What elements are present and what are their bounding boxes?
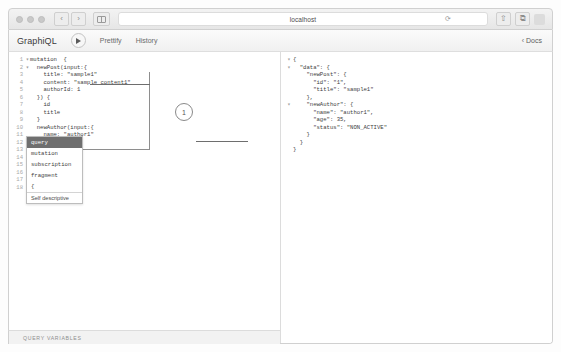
window-traffic-lights: [9, 16, 45, 23]
autocomplete-item[interactable]: fragment: [27, 170, 82, 181]
url-text: localhost: [290, 16, 317, 23]
annotation-strike-bottom: [196, 141, 248, 142]
line-source: title: [30, 109, 280, 117]
line-source: id: [30, 101, 280, 109]
play-icon: [76, 38, 81, 44]
line-number: 4: [9, 79, 25, 87]
editor-line[interactable]: 8 title: [9, 109, 280, 117]
line-source: mutation {: [30, 56, 280, 64]
reload-icon[interactable]: ⟳: [445, 15, 451, 23]
fold-toggle-icon[interactable]: ▾: [285, 64, 293, 72]
result-line-text: }: [293, 139, 303, 147]
editor-line[interactable]: 1▾mutation {: [9, 56, 280, 64]
line-number: 11: [9, 131, 25, 139]
result-line-text: }: [293, 131, 310, 139]
result-line: "newPost": {: [285, 71, 552, 79]
annotation-strike-top: [90, 84, 150, 85]
prettify-button[interactable]: Prettify: [100, 37, 122, 44]
result-line-text: "title": "sample1": [293, 86, 374, 94]
new-tab-icon[interactable]: [534, 14, 545, 25]
query-variables-label: QUERY VARIABLES: [23, 335, 82, 341]
editor-line[interactable]: 9 }: [9, 116, 280, 124]
result-line: "name": "author1",: [285, 109, 552, 117]
result-line-text: "data": {: [293, 64, 330, 72]
autocomplete-item[interactable]: query: [27, 137, 82, 148]
close-window-icon[interactable]: [16, 16, 23, 23]
editor-line[interactable]: 4 content: "sample content1": [9, 79, 280, 87]
forward-icon[interactable]: ›: [71, 12, 86, 26]
minimize-window-icon[interactable]: [27, 16, 34, 23]
line-number: 15: [9, 161, 25, 169]
editor-line[interactable]: 5 authorId: 1: [9, 86, 280, 94]
graphiql-toolbar: GraphiQL Prettify History ‹ Docs: [8, 30, 553, 52]
result-line-text: }: [293, 146, 296, 154]
editor-line[interactable]: 6 }) {: [9, 94, 280, 102]
result-line-text: {: [293, 56, 296, 64]
line-number: 18: [9, 184, 25, 192]
docs-button[interactable]: ‹ Docs: [522, 37, 542, 44]
result-line-text: "status": "NON_ACTIVE": [293, 124, 387, 132]
line-number: 8: [9, 109, 25, 117]
line-source: }: [30, 116, 280, 124]
line-source: content: "sample content1": [30, 79, 280, 87]
line-number: 2: [9, 64, 25, 72]
editor-line[interactable]: 2▾ newPost(input:{: [9, 64, 280, 72]
line-number: 9: [9, 116, 25, 124]
result-line: ▾{: [285, 56, 552, 64]
sidebar-glyph: [97, 16, 106, 23]
result-json: ▾{▾ "data": { "newPost": { "id": "1", "t…: [281, 52, 552, 154]
line-number: 13: [9, 146, 25, 154]
line-number: 12: [9, 139, 25, 147]
browser-right-actions: ⇧ ⧉: [496, 12, 552, 26]
result-line-text: "newPost": {: [293, 71, 347, 79]
history-button[interactable]: History: [136, 37, 158, 44]
result-line: "status": "NON_ACTIVE": [285, 124, 552, 132]
autocomplete-hint: Self descriptive: [27, 192, 82, 203]
zoom-window-icon[interactable]: [38, 16, 45, 23]
result-line-text: "age": 35,: [293, 116, 347, 124]
annotation-marker-1: 1: [175, 103, 193, 121]
address-bar[interactable]: localhost ⟳: [118, 12, 488, 26]
execute-query-button[interactable]: [71, 33, 86, 48]
fold-toggle-icon[interactable]: ▾: [285, 101, 293, 109]
back-icon[interactable]: ‹: [54, 12, 69, 26]
result-line: }: [285, 146, 552, 154]
result-line: }: [285, 131, 552, 139]
result-line: ▾ "data": {: [285, 64, 552, 72]
editor-line[interactable]: 7 id: [9, 101, 280, 109]
sidebar-icon[interactable]: [93, 12, 110, 26]
graphiql-body: 1▾mutation {2▾ newPost(input:{3 title: "…: [8, 52, 553, 344]
docs-label: Docs: [526, 37, 542, 44]
result-line: "title": "sample1": [285, 86, 552, 94]
share-icon[interactable]: ⇧: [496, 12, 511, 26]
result-line: ▾ "newAuthor": {: [285, 101, 552, 109]
result-line: }: [285, 139, 552, 147]
autocomplete-item[interactable]: subscription: [27, 159, 82, 170]
autocomplete-item[interactable]: mutation: [27, 148, 82, 159]
result-line-text: "newAuthor": {: [293, 101, 353, 109]
result-line: },: [285, 94, 552, 102]
browser-toolbar: ‹ › localhost ⟳ ⇧ ⧉: [8, 8, 553, 30]
result-line: "age": 35,: [285, 116, 552, 124]
line-source: newPost(input:{: [30, 64, 280, 72]
line-number: 1: [9, 56, 25, 64]
query-variables-bar[interactable]: QUERY VARIABLES: [8, 330, 280, 344]
line-source: title: "sample1": [30, 71, 280, 79]
line-number: 14: [9, 154, 25, 162]
line-source: authorId: 1: [30, 86, 280, 94]
result-line-text: "name": "author1",: [293, 109, 374, 117]
result-line-text: },: [293, 94, 313, 102]
editor-line[interactable]: 3 title: "sample1": [9, 71, 280, 79]
autocomplete-item[interactable]: {: [27, 181, 82, 192]
fold-toggle-icon[interactable]: ▾: [285, 56, 293, 64]
line-number: 10: [9, 124, 25, 132]
line-number: 5: [9, 86, 25, 94]
line-number: 7: [9, 101, 25, 109]
line-number: 3: [9, 71, 25, 79]
screenshot-root: ‹ › localhost ⟳ ⇧ ⧉ GraphiQL Prettify Hi…: [0, 0, 561, 352]
editor-line[interactable]: 10 newAuthor(input:{: [9, 124, 280, 132]
show-tabs-icon[interactable]: ⧉: [515, 12, 530, 26]
result-pane: ▾{▾ "data": { "newPost": { "id": "1", "t…: [281, 52, 552, 343]
line-source: newAuthor(input:{: [30, 124, 280, 132]
autocomplete-dropdown[interactable]: querymutationsubscriptionfragment{Self d…: [26, 136, 83, 204]
